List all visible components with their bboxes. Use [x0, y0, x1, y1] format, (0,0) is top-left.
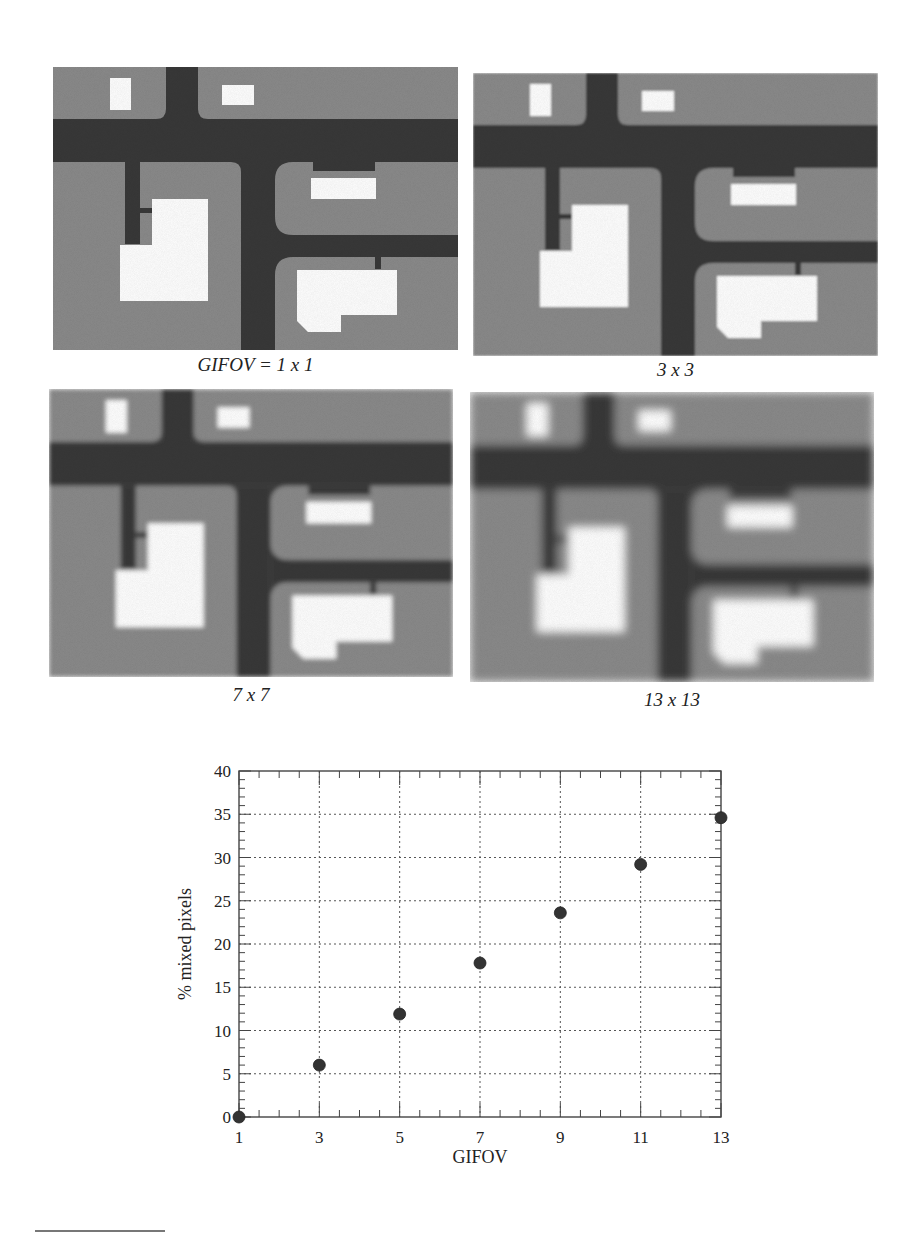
y-tick-label: 35 [214, 805, 231, 824]
x-tick-label: 7 [476, 1128, 485, 1147]
y-tick-label: 20 [214, 935, 231, 954]
y-axis-label: % mixed pixels [175, 888, 195, 1000]
data-point [394, 1008, 406, 1020]
footnote-rule [35, 1230, 165, 1232]
x-tick-label: 9 [556, 1128, 565, 1147]
x-tick-label: 1 [235, 1128, 244, 1147]
y-tick-label: 40 [214, 762, 231, 781]
y-tick-label: 15 [214, 978, 231, 997]
x-axis-label: GIFOV [452, 1147, 507, 1167]
mixed-pixels-chart: 1357911130510152025303540GIFOV% mixed pi… [0, 0, 915, 1233]
y-tick-label: 10 [214, 1022, 231, 1041]
x-tick-label: 11 [632, 1128, 648, 1147]
y-tick-label: 25 [214, 892, 231, 911]
y-tick-label: 0 [223, 1108, 232, 1127]
data-point [554, 907, 566, 919]
data-point [715, 812, 727, 824]
y-tick-label: 30 [214, 849, 231, 868]
data-point [313, 1059, 325, 1071]
x-tick-label: 3 [315, 1128, 324, 1147]
data-point [635, 858, 647, 870]
data-point [474, 957, 486, 969]
x-tick-label: 13 [713, 1128, 730, 1147]
y-tick-label: 5 [223, 1065, 232, 1084]
data-point [233, 1111, 245, 1123]
x-tick-label: 5 [395, 1128, 404, 1147]
